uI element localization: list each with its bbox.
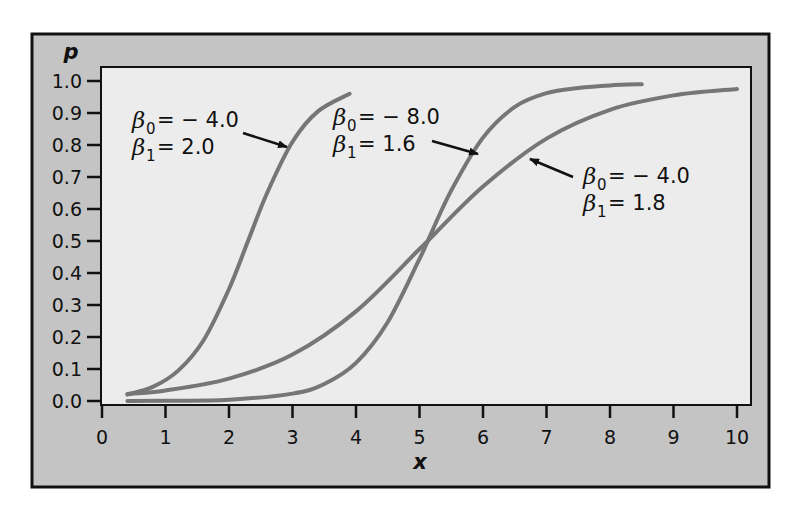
y-tick-label: 0.6: [52, 198, 82, 220]
beta1-subscript: 1: [146, 147, 156, 165]
beta1-symbol: β: [332, 131, 346, 157]
y-tick-label: 0.2: [52, 326, 82, 348]
beta0-value: = − 4.0: [157, 108, 239, 132]
y-tick-label: 0.8: [52, 134, 82, 156]
beta1-subscript: 1: [597, 203, 607, 221]
y-tick-label: 0.5: [52, 230, 82, 252]
beta0-symbol: β: [131, 107, 145, 133]
x-tick-label: 5: [413, 426, 425, 448]
x-tick-label: 10: [725, 426, 749, 448]
x-axis-title: x: [412, 450, 428, 474]
x-tick-label: 2: [223, 426, 235, 448]
x-tick-label: 4: [350, 426, 362, 448]
x-tick-label: 9: [667, 426, 679, 448]
beta1-value: = 1.8: [608, 191, 666, 215]
beta1-symbol: β: [131, 134, 145, 160]
beta0-subscript: 0: [146, 120, 156, 138]
x-tick-label: 3: [286, 426, 298, 448]
beta0-value: = − 4.0: [608, 164, 690, 188]
y-tick-label: 0.4: [52, 262, 82, 284]
y-tick-label: 0.1: [52, 358, 82, 380]
x-tick-label: 0: [96, 426, 108, 448]
beta1-value: = 1.6: [358, 132, 416, 156]
y-tick-label: 0.7: [52, 166, 82, 188]
beta0-subscript: 0: [347, 117, 357, 135]
beta0-value: = − 8.0: [358, 105, 440, 129]
y-axis-title: p: [62, 40, 78, 64]
beta1-subscript: 1: [347, 144, 357, 162]
x-tick-label: 7: [540, 426, 552, 448]
x-tick-label: 6: [477, 426, 489, 448]
beta1-symbol: β: [582, 190, 596, 216]
x-tick-label: 1: [159, 426, 171, 448]
beta0-subscript: 0: [597, 176, 607, 194]
beta1-value: = 2.0: [157, 135, 215, 159]
beta0-symbol: β: [582, 163, 596, 189]
y-tick-label: 1.0: [52, 70, 82, 92]
y-tick-label: 0.3: [52, 294, 82, 316]
x-tick-label: 8: [604, 426, 616, 448]
y-tick-label: 0.0: [52, 390, 82, 412]
logistic-curves-chart: p x 0.00.10.20.30.40.50.60.70.80.91.0 01…: [0, 0, 795, 515]
y-tick-label: 0.9: [52, 102, 82, 124]
beta0-symbol: β: [332, 104, 346, 130]
